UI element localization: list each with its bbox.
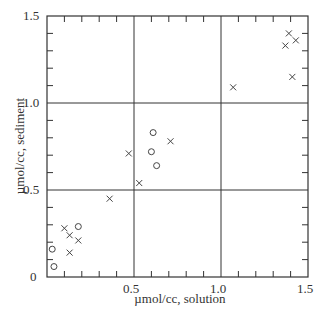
y-tick-10: 1.0 bbox=[23, 95, 39, 111]
cross-marker bbox=[282, 43, 288, 49]
y-tick-15: 1.5 bbox=[23, 8, 39, 24]
x-tick-10: 1.0 bbox=[210, 281, 226, 297]
cross-marker bbox=[126, 150, 132, 156]
x-tick-15: 1.5 bbox=[297, 281, 313, 297]
y-axis-label: µmol/cc, sediment bbox=[12, 66, 28, 226]
cross-marker bbox=[67, 250, 73, 256]
cross-marker bbox=[136, 180, 142, 186]
circle-marker bbox=[51, 264, 57, 270]
cross-marker bbox=[168, 138, 174, 144]
cross-marker bbox=[67, 232, 73, 238]
cross-marker bbox=[230, 84, 236, 90]
circle-marker bbox=[150, 130, 156, 136]
cross-marker bbox=[286, 30, 292, 36]
circle-marker bbox=[49, 246, 55, 252]
y-tick-0: 0 bbox=[30, 269, 37, 285]
y-tick-05: 0.5 bbox=[23, 182, 39, 198]
cross-marker bbox=[107, 196, 113, 202]
plot-frame bbox=[47, 16, 308, 277]
cross-marker bbox=[75, 237, 81, 243]
cross-marker bbox=[61, 225, 67, 231]
x-tick-05: 0.5 bbox=[123, 281, 139, 297]
scatter-chart bbox=[0, 0, 321, 317]
circle-marker bbox=[154, 163, 160, 169]
circle-marker bbox=[148, 149, 154, 155]
cross-marker bbox=[293, 37, 299, 43]
cross-marker bbox=[289, 74, 295, 80]
circle-marker bbox=[75, 224, 81, 230]
